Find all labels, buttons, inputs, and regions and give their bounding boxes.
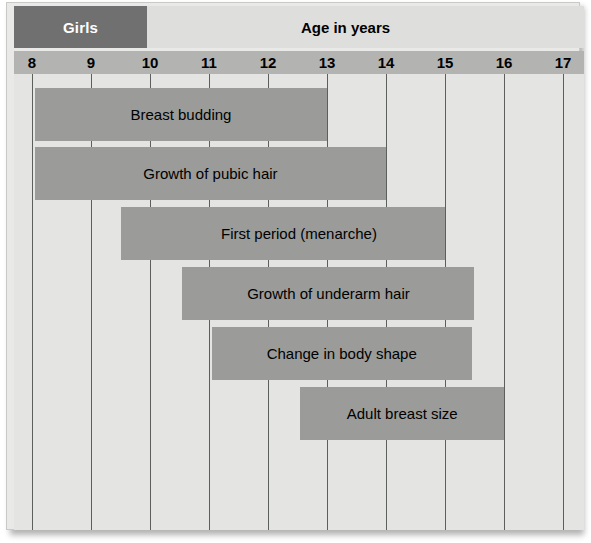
bar-label: Growth of pubic hair [143, 165, 277, 182]
axis-tick-label-8: 8 [28, 51, 36, 74]
chart-title: Age in years [147, 6, 584, 48]
axis-tick-label-17: 17 [555, 51, 572, 74]
chart-card: Girls Age in years 891011121314151617 Br… [6, 2, 580, 530]
bar-label: Growth of underarm hair [247, 285, 410, 302]
group-label-girls: Girls [14, 6, 147, 48]
bar-change-in-body-shape: Change in body shape [212, 327, 472, 380]
axis-tick-label-11: 11 [201, 51, 217, 74]
axis-tick-label-15: 15 [437, 51, 454, 74]
axis-tick-label-13: 13 [319, 51, 336, 74]
gridline-8 [32, 74, 33, 530]
x-axis-band: 891011121314151617 [14, 51, 584, 74]
axis-tick-label-12: 12 [260, 51, 277, 74]
bar-breast-budding: Breast budding [35, 88, 327, 141]
bar-adult-breast-size: Adult breast size [300, 387, 504, 440]
bar-label: Change in body shape [267, 345, 417, 362]
axis-tick-label-9: 9 [87, 51, 95, 74]
bar-first-period-menarche: First period (menarche) [153, 207, 445, 260]
bar-growth-of-underarm-hair: Growth of underarm hair [182, 267, 474, 320]
gridline-16 [504, 74, 505, 530]
axis-tick-label-14: 14 [378, 51, 395, 74]
gridline-9 [91, 74, 92, 530]
gridline-10 [150, 74, 151, 530]
axis-tick-label-10: 10 [142, 51, 159, 74]
chart-page: Girls Age in years 891011121314151617 Br… [0, 0, 591, 543]
bar-label: Breast budding [131, 106, 232, 123]
bar-growth-of-pubic-hair: Growth of pubic hair [35, 147, 386, 200]
bar-label: Adult breast size [347, 405, 458, 422]
axis-tick-label-16: 16 [496, 51, 513, 74]
bar-label: First period (menarche) [221, 225, 377, 242]
chart-header: Girls Age in years [14, 6, 584, 48]
plot-area: Breast buddingGrowth of pubic hairGrowth… [14, 74, 584, 530]
gridline-17 [563, 74, 564, 530]
